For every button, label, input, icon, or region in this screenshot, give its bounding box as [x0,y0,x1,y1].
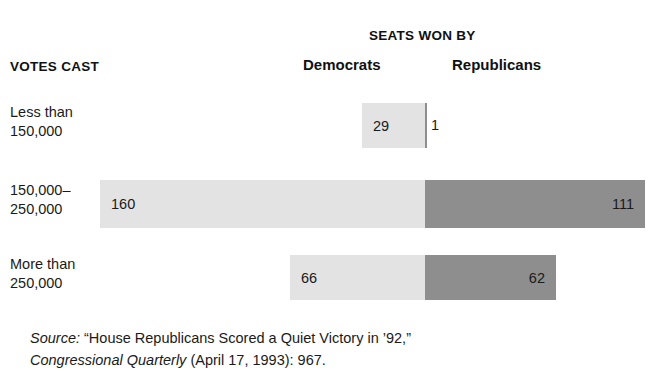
chart-container: SEATS WON BY VOTES CAST Democrats Republ… [0,0,648,371]
row-label-more-than-250000: More than 250,000 [10,255,75,293]
republicans-column-header: Republicans [452,56,541,73]
bar-republicans-row-1: 111 [425,180,645,228]
source-note: Source: “House Republicans Scored a Quie… [30,327,411,371]
bar-democrats-row-1: 160 [100,180,425,228]
bar-value-democrats-row-2: 66 [301,270,317,286]
bar-value-republicans-row-2: 62 [529,270,545,286]
bar-republicans-row-0 [425,103,427,148]
bar-value-democrats-row-1: 160 [111,196,135,212]
source-title: “House Republicans Scored a Quiet Victor… [80,330,411,346]
votes-cast-header: VOTES CAST [10,59,99,74]
row-label-less-than-150000: Less than 150,000 [10,103,73,141]
bar-republicans-row-2: 62 [425,255,556,300]
source-line-2: Congressional Quarterly (April 17, 1993)… [30,349,411,371]
source-line-1: Source: “House Republicans Scored a Quie… [30,327,411,349]
source-publication: Congressional Quarterly [30,352,186,368]
bar-democrats-row-2: 66 [290,255,425,300]
bar-value-republicans-row-0: 1 [431,117,439,133]
bar-democrats-row-0: 29 [362,103,425,148]
bar-value-democrats-row-0: 29 [373,118,389,134]
row-label-150000-250000: 150,000– 250,000 [10,181,70,219]
source-prefix: Source: [30,330,80,346]
democrats-column-header: Democrats [303,56,381,73]
source-citation-detail: (April 17, 1993): 967. [186,352,325,368]
seats-won-by-header: SEATS WON BY [369,28,476,43]
bar-value-republicans-row-1: 111 [612,196,634,212]
